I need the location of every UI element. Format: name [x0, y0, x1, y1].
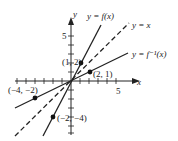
y-axis-label: y [72, 9, 77, 19]
x-axis-label: x [136, 77, 141, 87]
y-tick-label-5: 5 [62, 31, 67, 41]
x-axis [15, 78, 140, 84]
curve-identity-label: y = x [131, 20, 151, 30]
point-2-1-label: (2, 1) [93, 69, 113, 79]
curve-f-inverse-label: y = f⁻¹(x) [131, 49, 167, 59]
curve-f-label: y = f(x) [86, 11, 114, 21]
point-neg4-neg2 [33, 96, 38, 101]
point-neg2-neg4 [51, 115, 56, 120]
point-neg4-neg2-label: (−4, −2) [8, 85, 38, 95]
function-inverse-diagram: y x 5 5 y = f(x) y = x y = f⁻¹(x) (1, 2)… [0, 0, 178, 141]
x-tick-label-5: 5 [116, 86, 121, 96]
point-2-1 [88, 70, 93, 75]
point-1-2-label: (1, 2) [62, 57, 82, 67]
point-neg2-neg4-label: (−2, −4) [57, 113, 87, 123]
